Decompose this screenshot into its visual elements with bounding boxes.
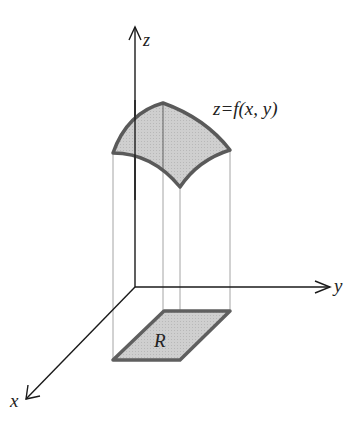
z-axis-label: z xyxy=(143,30,150,51)
x-axis xyxy=(26,287,135,399)
surface-label: z=f(x, y) xyxy=(213,98,278,120)
x-axis-label: x xyxy=(10,390,18,412)
y-axis-label: y xyxy=(334,275,342,297)
region-r xyxy=(113,311,230,360)
diagram-canvas xyxy=(0,0,358,434)
diagram-double-integral: z z=f(x, y) y R x xyxy=(0,0,358,434)
region-label: R xyxy=(154,330,166,352)
